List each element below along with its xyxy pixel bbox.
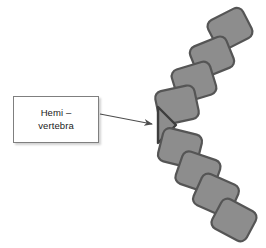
callout-arrow — [100, 114, 152, 124]
hemivertebra-diagram: Hemi – vertebra — [0, 0, 266, 248]
upper-spine-segment — [154, 5, 255, 125]
hemivertebra-callout-box: Hemi – vertebra — [13, 96, 99, 143]
callout-label-line-2: vertebra — [38, 120, 74, 133]
lower-spine-segment — [156, 127, 258, 244]
callout-label-line-1: Hemi – — [41, 107, 72, 120]
